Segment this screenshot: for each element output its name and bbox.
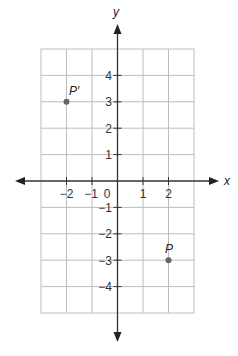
y-tick-label-neg2: −2 — [98, 227, 112, 241]
y-tick-label-neg3: −3 — [98, 254, 112, 268]
origin-label: 0 — [104, 187, 111, 201]
x-tick-label-neg1: −1 — [84, 187, 98, 201]
y-tick-label-neg1: −1 — [98, 201, 112, 215]
y-tick-label-neg4: −4 — [98, 280, 112, 294]
y-tick-label-3: 3 — [105, 95, 112, 109]
point-p — [166, 257, 172, 263]
point-p-prime — [64, 99, 70, 105]
x-tick-label-1: 1 — [140, 187, 147, 201]
y-tick-label-1: 1 — [105, 148, 112, 162]
x-axis-label: x — [223, 174, 231, 188]
y-axis-up-arrow-icon — [114, 24, 122, 34]
x-axis-left-arrow-icon — [15, 177, 25, 185]
x-axis-right-arrow-icon — [209, 177, 219, 185]
point-p-prime-label: P′ — [69, 84, 80, 98]
y-tick-label-2: 2 — [105, 122, 112, 136]
point-p-label: P — [165, 242, 173, 256]
y-axis — [114, 24, 122, 342]
y-axis-down-arrow-icon — [114, 332, 122, 342]
coordinate-plane: x y −2 −1 0 1 2 4 3 2 1 −1 −2 −3 −4 P′ P — [0, 0, 238, 356]
x-tick-label-2: 2 — [165, 187, 172, 201]
y-tick-label-4: 4 — [105, 69, 112, 83]
y-axis-label: y — [112, 5, 120, 19]
x-tick-label-neg2: −2 — [60, 187, 74, 201]
